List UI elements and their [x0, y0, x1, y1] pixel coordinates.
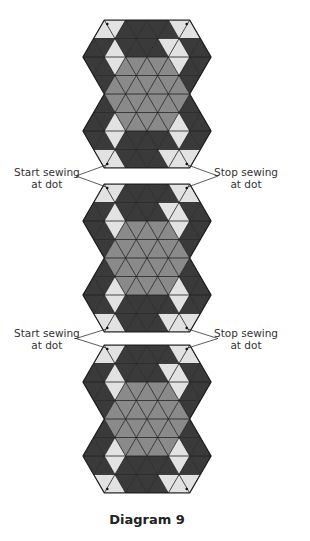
- sewing-dot-bottom-right: [185, 327, 188, 330]
- sewing-dot-top-left: [106, 23, 109, 26]
- sewing-dot-bottom-right: [185, 163, 188, 166]
- sewing-dot-top-left: [106, 348, 109, 351]
- sewing-dot-bottom-right: [185, 488, 188, 491]
- sewing-dot-bottom-left: [106, 327, 109, 330]
- seam-1-stop-label: Stop sewing at dot: [214, 166, 278, 190]
- quilt-diagram: [0, 0, 310, 541]
- sewing-dot-top-left: [106, 187, 109, 190]
- quilt-block-2: [0, 166, 310, 351]
- sewing-dot-top-right: [185, 348, 188, 351]
- sewing-dot-top-right: [185, 187, 188, 190]
- seam-2-stop-label: Stop sewing at dot: [214, 327, 278, 351]
- quilt-block-1: [0, 2, 310, 187]
- seam-1-start-label: Start sewing at dot: [14, 166, 80, 190]
- sewing-dot-bottom-left: [106, 163, 109, 166]
- hexagon-blocks: [0, 2, 310, 512]
- quilt-block-3: [0, 327, 310, 512]
- sewing-dot-top-right: [185, 23, 188, 26]
- diagram-caption: Diagram 9: [0, 512, 294, 527]
- seam-2-start-label: Start sewing at dot: [14, 327, 80, 351]
- sewing-dot-bottom-left: [106, 488, 109, 491]
